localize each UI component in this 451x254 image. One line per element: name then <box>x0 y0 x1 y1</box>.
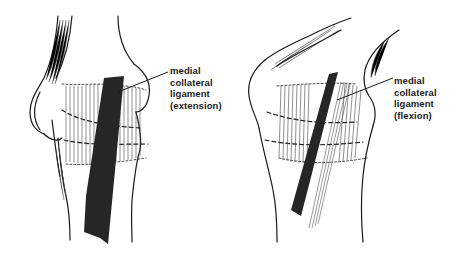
knee-flexion-drawing <box>225 0 451 254</box>
label-line: medial <box>170 65 222 77</box>
ligament-label-flexion: medial collateral ligament (flexion) <box>394 75 437 121</box>
knee-extension-illustration: medial collateral ligament (extension) <box>0 0 230 254</box>
label-line: (extension) <box>170 100 222 112</box>
label-line: collateral <box>394 87 437 99</box>
label-line: ligament <box>394 98 437 110</box>
label-line: medial <box>394 75 437 87</box>
label-line: ligament <box>170 88 222 100</box>
knee-extension-drawing <box>0 0 230 254</box>
knee-flexion-illustration <box>225 0 451 254</box>
label-line: (flexion) <box>394 110 437 122</box>
label-line: collateral <box>170 77 222 89</box>
ligament-label-extension: medial collateral ligament (extension) <box>170 65 222 111</box>
